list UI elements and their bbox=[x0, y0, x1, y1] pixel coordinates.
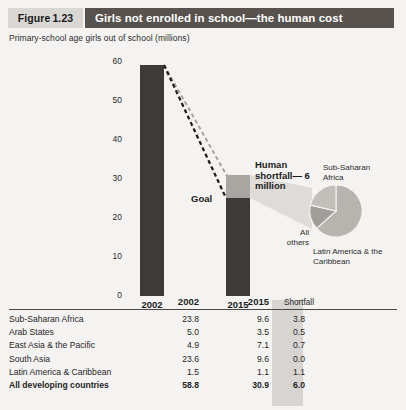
cell-shortfall: 0.5 bbox=[283, 326, 315, 339]
cell-2002: 58.8 bbox=[143, 378, 213, 391]
cell-spacer bbox=[315, 310, 397, 326]
cell-spacer bbox=[315, 352, 397, 365]
table-head: 2002 2015 Shortfall bbox=[9, 296, 397, 310]
cell-2002: 23.6 bbox=[143, 352, 213, 365]
pie-label-all-others: All others bbox=[283, 228, 309, 247]
cell-2002: 23.8 bbox=[143, 310, 213, 326]
cell-region: South Asia bbox=[9, 352, 143, 365]
cell-region: Latin America & Caribbean bbox=[9, 365, 143, 378]
table-header-row: 2002 2015 Shortfall bbox=[9, 296, 397, 310]
cell-shortfall: 6.0 bbox=[283, 378, 315, 391]
table-row: Sub-Saharan Africa 23.8 9.6 3.8 bbox=[9, 310, 397, 326]
th-2015: 2015 bbox=[213, 296, 283, 310]
table-row: Arab States 5.0 3.5 0.5 bbox=[9, 326, 397, 339]
cell-region: All developing countries bbox=[9, 378, 143, 391]
th-region bbox=[9, 296, 143, 310]
table-row: East Asia & the Pacific 4.9 7.1 0.7 bbox=[9, 339, 397, 352]
cell-2015: 9.6 bbox=[213, 352, 283, 365]
cell-2015: 1.1 bbox=[213, 365, 283, 378]
trendline-actual bbox=[164, 65, 227, 176]
chart-plot-area: 60 50 40 30 20 10 0 2002 bbox=[0, 0, 406, 310]
cell-spacer bbox=[315, 365, 397, 378]
data-table-container: 2002 2015 Shortfall Sub-Saharan Africa 2… bbox=[0, 296, 406, 410]
cell-2015: 7.1 bbox=[213, 339, 283, 352]
human-shortfall-annotation: Human shortfall— 6 million bbox=[255, 160, 311, 192]
th-2002: 2002 bbox=[143, 296, 213, 310]
figure-page: Figure1.23 Girls not enrolled in school—… bbox=[0, 0, 406, 410]
cell-2015: 9.6 bbox=[213, 310, 283, 326]
cell-region: Sub-Saharan Africa bbox=[9, 310, 143, 326]
pie-label-sub-saharan-africa: Sub-Saharan Africa bbox=[323, 163, 383, 182]
th-shortfall: Shortfall bbox=[283, 296, 315, 310]
table-row: Latin America & Caribbean 1.5 1.1 1.1 bbox=[9, 365, 397, 378]
cell-region: East Asia & the Pacific bbox=[9, 339, 143, 352]
cell-spacer bbox=[315, 378, 397, 391]
table-row-total: All developing countries 58.8 30.9 6.0 bbox=[9, 378, 397, 391]
trendline-goal bbox=[164, 65, 226, 198]
th-spacer bbox=[315, 296, 397, 310]
cell-shortfall: 0.0 bbox=[283, 352, 315, 365]
cell-2015: 3.5 bbox=[213, 326, 283, 339]
table-row: South Asia 23.6 9.6 0.0 bbox=[9, 352, 397, 365]
cell-region: Arab States bbox=[9, 326, 143, 339]
cell-shortfall: 1.1 bbox=[283, 365, 315, 378]
cell-2002: 1.5 bbox=[143, 365, 213, 378]
cell-2015: 30.9 bbox=[213, 378, 283, 391]
cell-2002: 5.0 bbox=[143, 326, 213, 339]
cell-shortfall: 0.7 bbox=[283, 339, 315, 352]
cell-2002: 4.9 bbox=[143, 339, 213, 352]
cell-spacer bbox=[315, 339, 397, 352]
cell-shortfall: 3.8 bbox=[283, 310, 315, 326]
pie-label-latin-america-caribbean: Latin America & the Caribbean bbox=[313, 247, 389, 266]
cell-spacer bbox=[315, 326, 397, 339]
table-body: Sub-Saharan Africa 23.8 9.6 3.8 Arab Sta… bbox=[9, 310, 397, 392]
data-table: 2002 2015 Shortfall Sub-Saharan Africa 2… bbox=[9, 296, 397, 392]
goal-annotation: Goal bbox=[191, 193, 212, 204]
